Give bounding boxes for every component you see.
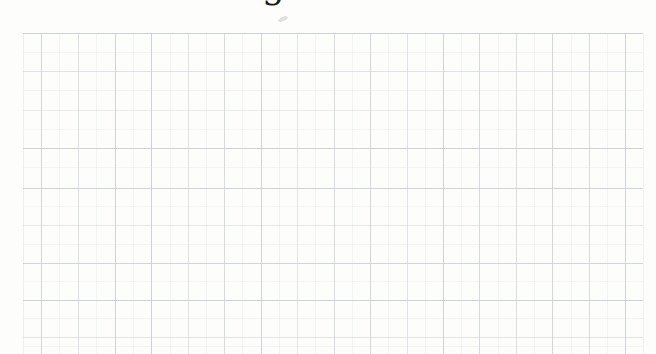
grid-line-vertical-major <box>516 33 517 354</box>
grid-line-vertical-major <box>407 33 408 354</box>
grid-line-horizontal-minor <box>23 281 643 282</box>
grid-line-vertical-major <box>334 33 335 354</box>
grid-line-vertical-major <box>41 33 42 354</box>
grid-line-horizontal-minor <box>23 90 643 91</box>
grid-line-vertical-minor <box>279 33 280 354</box>
grid-line-vertical-minor <box>571 33 572 354</box>
grid-line-horizontal-minor <box>23 167 643 168</box>
grid-line-vertical-minor <box>59 33 60 354</box>
grid-line-vertical-minor <box>96 33 97 354</box>
grid-line-horizontal-major <box>23 148 643 149</box>
grid-line-vertical-minor <box>170 33 171 354</box>
grid-line-horizontal-minor <box>23 346 643 347</box>
grid-line-horizontal-minor <box>23 318 643 319</box>
grid-line-vertical-major <box>443 33 444 354</box>
grid-line-vertical-major <box>479 33 480 354</box>
grid-line-vertical-minor <box>315 33 316 354</box>
grid-line-vertical-major <box>370 33 371 354</box>
grid-line-horizontal-minor <box>23 129 643 130</box>
grid-line-vertical-major <box>188 33 189 354</box>
grid-line-vertical-minor <box>388 33 389 354</box>
grid-line-horizontal-major <box>23 263 643 264</box>
grid-line-vertical-minor <box>534 33 535 354</box>
grid-line-vertical-major <box>589 33 590 354</box>
grid-line-horizontal-minor <box>23 206 643 207</box>
grid-line-horizontal-minor <box>23 52 643 53</box>
scanned-graph-paper-page: g <box>0 0 656 354</box>
grid-line-vertical-major <box>78 33 79 354</box>
grid-line-vertical-major <box>625 33 626 354</box>
grid-line-vertical-major <box>261 33 262 354</box>
grid-line-vertical-minor <box>461 33 462 354</box>
grid-line-horizontal-major <box>23 300 643 301</box>
grid-line-vertical-minor <box>643 33 644 354</box>
grid-line-vertical-minor <box>425 33 426 354</box>
grid-line-vertical-minor <box>133 33 134 354</box>
grid-line-vertical-major <box>115 33 116 354</box>
grid-line-vertical-major <box>297 33 298 354</box>
grid-line-horizontal-major <box>23 188 643 189</box>
grid-line-vertical-minor <box>498 33 499 354</box>
grid-line-vertical-minor <box>242 33 243 354</box>
grid-line-horizontal-minor <box>23 244 643 245</box>
grid-line-vertical-major <box>151 33 152 354</box>
grid-line-vertical-minor <box>352 33 353 354</box>
grid-line-vertical-minor <box>206 33 207 354</box>
grid-line-horizontal-major <box>23 33 643 34</box>
grid-line-horizontal-major <box>23 71 643 72</box>
grid-line-vertical-minor <box>607 33 608 354</box>
grid-line-horizontal-major <box>23 225 643 226</box>
cutoff-heading-glyph: g <box>262 0 285 4</box>
grid-line-horizontal-major <box>23 110 643 111</box>
grid-line-vertical-major <box>224 33 225 354</box>
graph-grid <box>23 33 643 354</box>
grid-line-vertical-minor <box>23 33 24 354</box>
paper-smudge-mark <box>278 15 289 23</box>
grid-line-vertical-major <box>552 33 553 354</box>
grid-line-horizontal-major <box>23 337 643 338</box>
